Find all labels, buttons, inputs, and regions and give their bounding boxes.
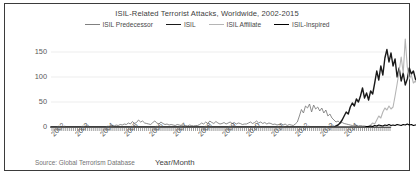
legend-item-isil-inspired[interactable]: ISIL-Inspired — [274, 21, 329, 28]
chart-frame: ISIL-Related Terrorist Attacks, Worldwid… — [4, 3, 410, 171]
chart-title: ISIL-Related Terrorist Attacks, Worldwid… — [5, 9, 409, 18]
legend-label: ISIL Predecessor — [103, 21, 153, 28]
y-axis-tick-labels: 050100150 — [5, 37, 51, 127]
legend-item-isil-predecessor[interactable]: ISIL Predecessor — [85, 21, 153, 28]
legend-swatch-icon — [274, 24, 289, 25]
y-tick-label: 100 — [35, 72, 47, 81]
plot-area — [51, 37, 391, 127]
chart-legend: ISIL Predecessor ISIL ISIL Affiliate ISI… — [5, 21, 409, 28]
legend-swatch-icon — [166, 24, 181, 25]
x-axis-tick-labels: 2002200320042005200620072008200920102011… — [51, 132, 391, 156]
legend-swatch-icon — [85, 24, 100, 25]
legend-swatch-icon — [209, 24, 224, 25]
x-axis-title: Year/Month — [155, 158, 195, 167]
legend-label: ISIL Affiliate — [227, 21, 261, 28]
source-note: Source: Global Terrorism Database — [35, 159, 135, 166]
y-axis-title: Attacks — [0, 20, 1, 44]
y-tick-label: 0 — [43, 122, 47, 131]
y-tick-label: 50 — [39, 97, 47, 106]
y-tick-label: 150 — [35, 47, 47, 56]
plot-svg — [51, 37, 391, 127]
legend-label: ISIL-Inspired — [292, 21, 329, 28]
legend-item-isil[interactable]: ISIL — [166, 21, 196, 28]
series-line-1 — [51, 50, 416, 128]
legend-label: ISIL — [184, 21, 196, 28]
legend-item-isil-affiliate[interactable]: ISIL Affiliate — [209, 21, 261, 28]
